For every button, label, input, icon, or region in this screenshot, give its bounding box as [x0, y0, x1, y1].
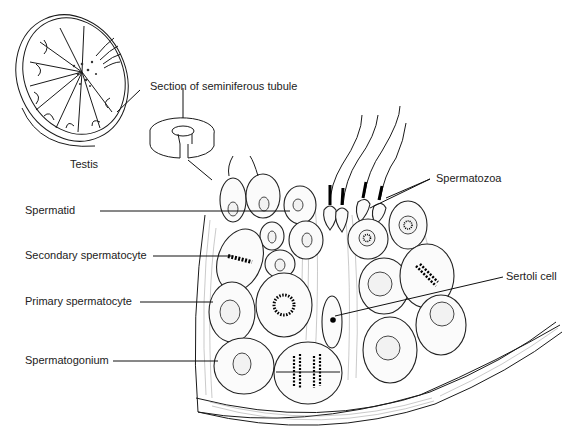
tubule-section-illustration: [150, 118, 214, 158]
spermatogonium-cells: [214, 338, 342, 404]
label-testis: Testis: [70, 158, 98, 170]
sertoli-cell: [322, 296, 342, 348]
label-primary-spermatocyte: Primary spermatocyte: [25, 295, 132, 307]
right-cells: [348, 201, 466, 383]
diagram-canvas: Section of seminiferous tubule Testis Sp…: [0, 0, 584, 435]
label-spermatozoa: Spermatozoa: [436, 172, 501, 184]
primary-spermatocyte-cells: [209, 273, 312, 342]
label-secondary-spermatocyte: Secondary spermatocyte: [25, 249, 147, 261]
label-sertoli-cell: Sertoli cell: [506, 270, 557, 282]
label-spermatid: Spermatid: [25, 204, 75, 216]
diagram-illustration: [0, 0, 584, 435]
label-section-of-seminiferous-tubule: Section of seminiferous tubule: [150, 80, 297, 92]
testis-illustration: [0, 0, 148, 160]
label-spermatogonium: Spermatogonium: [25, 354, 109, 366]
